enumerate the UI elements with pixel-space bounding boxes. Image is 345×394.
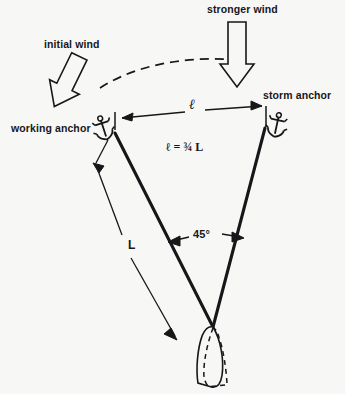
label-ell-equation: ℓ = ¾ L <box>166 140 203 155</box>
diagram-canvas <box>0 0 345 394</box>
label-rode-length: L <box>128 238 135 252</box>
anchoring-diagram: stronger wind initial wind working ancho… <box>0 0 345 394</box>
label-angle: 45° <box>193 228 210 240</box>
stronger-wind-arrow <box>220 22 254 87</box>
label-working-anchor: working anchor <box>11 122 91 134</box>
label-initial-wind: initial wind <box>44 38 99 50</box>
rode-storm <box>213 128 265 327</box>
label-storm-anchor: storm anchor <box>263 89 331 101</box>
anchor-rodes <box>115 128 265 327</box>
label-ell-dimension: ℓ <box>189 97 195 113</box>
storm-anchor-icon <box>264 111 291 139</box>
label-stronger-wind: stronger wind <box>207 3 278 15</box>
wind-shift-arc <box>100 59 237 88</box>
initial-wind-arrow <box>40 49 94 114</box>
boat-hull-icon <box>189 325 234 389</box>
working-anchor-icon <box>89 113 117 143</box>
